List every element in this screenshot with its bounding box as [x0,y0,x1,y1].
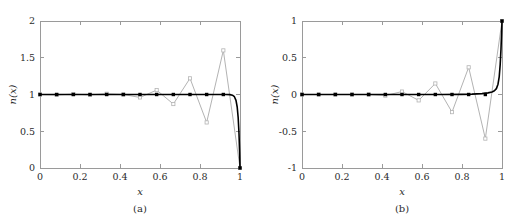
oscillating-marker [172,102,175,105]
y-tick-label: 1.5 [20,52,35,63]
plot-a: 00.20.40.60.8100.511.52xn(x)(a) [0,0,262,220]
x-tick-label: 0 [299,171,305,182]
exact-marker [138,93,141,96]
panel-b: 00.20.40.60.81-1-0.500.51xn(x)(b) [262,0,524,220]
x-tick-label: 0.4 [112,171,127,182]
panel-caption: (b) [395,203,409,214]
exact-marker [122,93,125,96]
exact-marker [500,19,503,22]
oscillating-marker [467,66,470,69]
exact-marker [222,93,225,96]
panel-a: 00.20.40.60.8100.511.52xn(x)(a) [0,0,262,220]
exact-curve [40,95,240,169]
y-tick-label: 0.5 [20,126,35,137]
x-tick-label: 0.2 [334,171,349,182]
exact-marker [172,93,175,96]
oscillating-marker [138,96,141,99]
x-tick-label: 0 [37,171,43,182]
exact-marker [105,93,108,96]
oscillating-curve [302,21,502,139]
exact-marker [417,93,420,96]
oscillating-marker [484,137,487,140]
y-axis-title: n(x) [7,84,18,104]
plot-b: 00.20.40.60.81-1-0.500.51xn(x)(b) [262,0,524,220]
y-tick-label: -1 [288,162,297,173]
exact-marker [188,93,191,96]
exact-marker [350,93,353,96]
y-tick-label: 0 [291,89,297,100]
oscillating-marker [205,121,208,124]
x-tick-label: 0.6 [152,171,167,182]
x-tick-label: 1 [237,171,243,182]
y-axis-title: n(x) [269,84,280,104]
exact-marker [88,93,91,96]
exact-marker [72,93,75,96]
x-tick-label: 0.8 [454,171,469,182]
exact-marker [38,93,41,96]
x-tick-label: 0.4 [374,171,389,182]
oscillating-marker [434,82,437,85]
oscillating-curve [40,50,240,168]
exact-marker [300,93,303,96]
exact-marker [467,93,470,96]
oscillating-marker [450,111,453,114]
x-tick-label: 0.6 [414,171,429,182]
exact-marker [155,93,158,96]
exact-marker [450,93,453,96]
exact-marker [384,93,387,96]
y-tick-label: 1 [291,15,297,26]
exact-marker [434,93,437,96]
exact-marker [205,93,208,96]
panel-caption: (a) [133,203,147,214]
oscillating-marker [188,77,191,80]
x-axis-title: x [399,186,405,197]
y-tick-label: -0.5 [279,126,297,137]
oscillating-marker [155,88,158,91]
x-axis-title: x [137,186,143,197]
y-tick-label: 2 [29,15,35,26]
x-tick-label: 1 [499,171,505,182]
y-tick-label: 0.5 [282,52,297,63]
exact-marker [367,93,370,96]
oscillating-marker [222,49,225,52]
exact-marker [484,93,487,96]
x-tick-label: 0.8 [192,171,207,182]
exact-marker [400,93,403,96]
exact-marker [317,93,320,96]
y-tick-label: 1 [29,89,35,100]
exact-marker [238,166,241,169]
y-tick-label: 0 [29,162,35,173]
exact-marker [55,93,58,96]
oscillating-marker [417,99,420,102]
x-tick-label: 0.2 [72,171,87,182]
exact-marker [334,93,337,96]
figure-container: 00.20.40.60.8100.511.52xn(x)(a) 00.20.40… [0,0,525,220]
oscillating-marker [400,90,403,93]
